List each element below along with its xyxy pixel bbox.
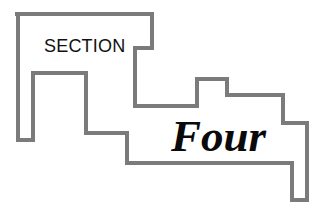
section-number-title: Four: [171, 111, 266, 161]
section-title-graphic: SECTION Four: [0, 0, 321, 221]
stepped-outline-frame: [0, 0, 321, 221]
section-label: SECTION: [44, 36, 125, 56]
